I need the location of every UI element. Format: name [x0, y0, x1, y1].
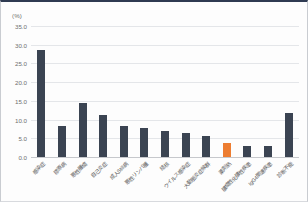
x-label-slot: 感染症: [31, 158, 52, 202]
bar-highlighted[interactable]: [223, 143, 231, 157]
x-axis-labels: 感染症膠原病悪性腫瘍自己炎症成人Still病悪性リンパ腫結核ウイルス感染症大動脈…: [31, 158, 299, 202]
bar[interactable]: [120, 126, 128, 157]
x-label-slot: 膠原病: [52, 158, 73, 202]
bar-slot: [113, 26, 134, 157]
bar-slot: [155, 26, 176, 157]
bar-slot: [175, 26, 196, 157]
y-axis-tick-label: 5.0: [18, 135, 27, 142]
bar-slot: [216, 26, 237, 157]
bar[interactable]: [202, 136, 210, 157]
x-axis-tick-label: 感染症: [31, 160, 47, 176]
bar-slot: [258, 26, 279, 157]
bar[interactable]: [140, 128, 148, 157]
bar[interactable]: [182, 133, 190, 157]
y-axis-tick-label: 35.0: [15, 23, 27, 30]
bar-series: [31, 26, 299, 157]
x-label-slot: 自己炎症: [93, 158, 114, 202]
x-axis-tick-label: 結核: [158, 160, 171, 173]
y-axis-tick-label: 25.0: [15, 60, 27, 67]
x-axis-tick-label: 薬剤熱: [216, 160, 232, 176]
bar[interactable]: [99, 115, 107, 157]
chart-container: (%) 0.05.010.015.020.025.030.035.0 感染症膠原…: [0, 0, 308, 202]
y-axis-tick-label: 10.0: [15, 116, 27, 123]
x-label-slot: 悪性リンパ腫: [134, 158, 155, 202]
y-axis-tick-label: 20.0: [15, 79, 27, 86]
bar[interactable]: [79, 103, 87, 157]
plot-area: 0.05.010.015.020.025.030.035.0: [31, 26, 299, 157]
bar-slot: [237, 26, 258, 157]
bar[interactable]: [37, 50, 45, 157]
x-axis-tick-label: 膠原病: [52, 160, 68, 176]
bar[interactable]: [161, 131, 169, 157]
x-axis-tick-label: 悪性腫瘍: [69, 160, 89, 180]
x-axis-tick-label: 自己炎症: [89, 160, 109, 180]
bar-slot: [72, 26, 93, 157]
bar-slot: [52, 26, 73, 157]
bar-slot: [134, 26, 155, 157]
y-axis-tick-label: 30.0: [15, 41, 27, 48]
bar-slot: [278, 26, 299, 157]
bar-slot: [31, 26, 52, 157]
x-label-slot: 悪性腫瘍: [72, 158, 93, 202]
x-label-slot: 大動脈炎症候群: [196, 158, 217, 202]
y-axis-tick-label: 0.0: [18, 154, 27, 161]
x-axis-tick-label: 診断不能: [275, 160, 295, 180]
x-label-slot: 診断不能: [278, 158, 299, 202]
bar[interactable]: [243, 146, 251, 157]
bar-slot: [196, 26, 217, 157]
x-label-slot: IgG4関連疾患: [258, 158, 279, 202]
bar[interactable]: [285, 113, 293, 157]
bar[interactable]: [264, 146, 272, 157]
bar-slot: [93, 26, 114, 157]
y-axis-unit-label: (%): [12, 12, 22, 19]
y-axis-tick-label: 15.0: [15, 97, 27, 104]
bar[interactable]: [58, 126, 66, 157]
